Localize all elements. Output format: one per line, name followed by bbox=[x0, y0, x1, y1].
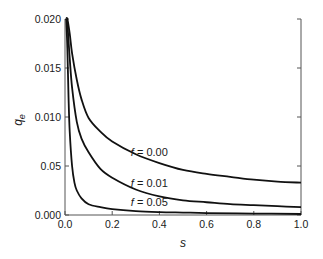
curves bbox=[66, 18, 301, 214]
chart: 0.00.20.40.60.81.0 0.0000.050.0100.0150.… bbox=[0, 0, 323, 259]
y-tick-label: 0.010 bbox=[35, 111, 61, 123]
x-axis-label: s bbox=[180, 236, 186, 250]
curve-label-2: f = 0.05 bbox=[131, 196, 168, 208]
curve-label-value: = 0.00 bbox=[134, 146, 168, 158]
y-tick-label: 0.000 bbox=[35, 209, 61, 221]
y-axis-label-subscript: e bbox=[17, 114, 27, 119]
curve-series-2 bbox=[66, 19, 301, 214]
y-tick-label: 0.020 bbox=[35, 13, 61, 25]
x-tick-label: 0.2 bbox=[105, 218, 120, 230]
axes: 0.00.20.40.60.81.0 0.0000.050.0100.0150.… bbox=[35, 13, 309, 230]
right-axis-ticks bbox=[297, 19, 301, 215]
curve-label-1: f = 0.01 bbox=[131, 177, 168, 189]
y-axis-label: qe bbox=[11, 114, 27, 126]
curve-series-1 bbox=[66, 19, 301, 207]
x-tick-label: 0.4 bbox=[152, 218, 167, 230]
curve-label-value: = 0.01 bbox=[134, 177, 168, 189]
y-ticks: 0.0000.050.0100.0150.020 bbox=[35, 13, 69, 221]
y-tick-label: 0.015 bbox=[35, 62, 61, 74]
curve-series-0 bbox=[66, 18, 301, 183]
x-tick-label: 0.6 bbox=[199, 218, 214, 230]
y-tick-label: 0.05 bbox=[41, 160, 62, 172]
curve-labels: f = 0.00f = 0.01f = 0.05 bbox=[131, 146, 168, 208]
x-tick-label: 0.8 bbox=[246, 218, 261, 230]
curve-label-0: f = 0.00 bbox=[131, 146, 168, 158]
curve-label-value: = 0.05 bbox=[134, 196, 168, 208]
x-tick-label: 1.0 bbox=[294, 218, 309, 230]
